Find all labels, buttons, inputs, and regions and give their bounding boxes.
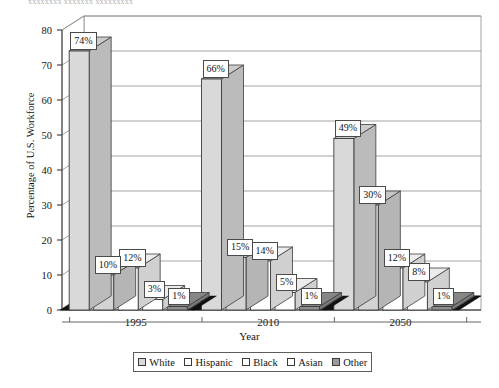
legend-swatch-asian xyxy=(287,358,295,366)
legend-swatch-other xyxy=(332,358,340,366)
bar-data-label: 1% xyxy=(301,288,322,306)
legend-item-black: Black xyxy=(242,357,278,368)
legend-item-hispanic: Hispanic xyxy=(184,357,233,368)
bar-data-label: 15% xyxy=(227,239,253,257)
bar-data-label: 14% xyxy=(252,242,278,260)
legend-item-white: White xyxy=(138,357,175,368)
bar-data-label: 66% xyxy=(203,60,229,78)
legend-label-white: White xyxy=(149,357,175,368)
bar-data-label: 12% xyxy=(119,249,145,267)
bar-data-label: 10% xyxy=(95,256,121,274)
bar-data-label: 5% xyxy=(276,274,297,292)
legend-label-asian: Asian xyxy=(298,357,323,368)
bar-data-label: 12% xyxy=(384,249,410,267)
legend-label-other: Other xyxy=(343,357,367,368)
legend-label-black: Black xyxy=(253,357,278,368)
legend-label-hispanic: Hispanic xyxy=(195,357,232,368)
plot-canvas xyxy=(0,0,499,388)
bar-data-label: 30% xyxy=(359,186,385,204)
legend-swatch-hispanic xyxy=(184,358,192,366)
chart-legend: White Hispanic Black Asian Other xyxy=(133,352,372,372)
bar-data-label: 49% xyxy=(335,120,361,138)
bar-data-label: 74% xyxy=(70,32,96,50)
bar-data-label: 3% xyxy=(144,281,165,299)
bar-data-label: 1% xyxy=(168,288,189,306)
legend-swatch-black xyxy=(242,358,250,366)
legend-item-asian: Asian xyxy=(287,357,323,368)
chart-figure: xxxxxxxx xxxxxxx xxxxxxxxx Percentage of… xyxy=(0,0,499,388)
legend-item-other: Other xyxy=(332,357,367,368)
bar-data-label: 8% xyxy=(408,263,429,281)
legend-swatch-white xyxy=(138,358,146,366)
bar-data-label: 1% xyxy=(433,288,454,306)
